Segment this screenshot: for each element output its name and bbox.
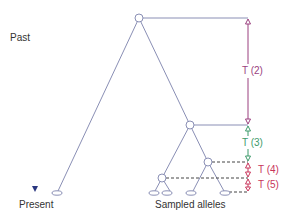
- allele-2: [149, 191, 159, 195]
- sampled-alleles: [52, 191, 230, 195]
- root-node: [135, 14, 143, 22]
- allele-5: [220, 191, 230, 195]
- internal-node-2: [186, 121, 194, 129]
- arrow-down-icon: [32, 186, 38, 192]
- interval-t2-label: T (2): [242, 66, 263, 76]
- interval-t4: [246, 163, 251, 177]
- time-arrow: [32, 30, 38, 192]
- interval-t3-label: T (3): [242, 138, 263, 148]
- interval-t4-label: T (4): [258, 165, 279, 175]
- interval-t5-label: T (5): [258, 180, 279, 190]
- allele-3: [162, 191, 172, 195]
- past-label: Past: [10, 33, 30, 43]
- internal-node-3: [204, 158, 212, 166]
- coalescent-tree-diagram: [0, 0, 291, 222]
- internal-node-4: [158, 174, 166, 182]
- interval-t5: [246, 179, 251, 191]
- allele-4: [186, 191, 196, 195]
- allele-1: [52, 191, 62, 195]
- genealogy-branches: [58, 18, 224, 191]
- present-label: Present: [19, 200, 53, 210]
- sampled-alleles-label: Sampled alleles: [155, 200, 226, 210]
- time-connectors: [143, 18, 248, 192]
